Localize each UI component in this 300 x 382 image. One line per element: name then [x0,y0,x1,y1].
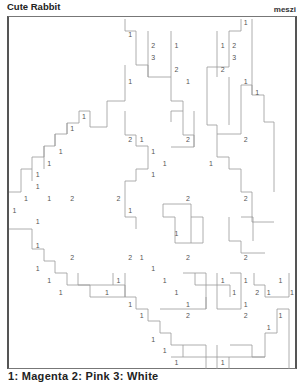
outline-eye [163,204,203,243]
clue-cell[interactable]: 1 [44,193,55,204]
clue-cell[interactable]: 1 [159,345,170,356]
clue-cell[interactable]: 1 [67,123,78,134]
clue-cell[interactable]: 1 [263,287,274,298]
clue-cell[interactable]: 1 [182,299,193,310]
clue-cell[interactable]: 1 [136,252,147,263]
clue-cell[interactable]: 1 [217,357,228,368]
clue-cell[interactable]: 1 [217,40,228,51]
clue-cell[interactable]: 1 [55,146,66,157]
clue-cell[interactable]: 1 [44,275,55,286]
clue-cell[interactable]: 2 [252,287,263,298]
clue-cell[interactable]: 1 [229,287,240,298]
clue-cell[interactable]: 1 [275,275,286,286]
clue-cell[interactable]: 2 [171,64,182,75]
clue-cell[interactable]: 1 [78,111,89,122]
clue-cell[interactable]: 1 [32,181,43,192]
clue-cell[interactable]: 1 [240,76,251,87]
clue-cell[interactable]: 1 [9,205,20,216]
clue-cell[interactable]: 2 [113,193,124,204]
clue-cell[interactable]: 1 [275,310,286,321]
clue-cell[interactable]: 2 [240,310,251,321]
clue-cell[interactable]: 1 [171,228,182,239]
clue-cell[interactable]: 1 [32,169,43,180]
clue-cell[interactable]: 2 [240,134,251,145]
clue-cell[interactable]: 1 [171,357,182,368]
clue-cell[interactable]: 1 [148,334,159,345]
clue-cell[interactable]: 2 [229,40,240,51]
clue-cell[interactable]: 2 [240,193,251,204]
color-legend: 1: Magenta 2: Pink 3: White [8,370,159,382]
clue-cell[interactable]: 1 [32,240,43,251]
clue-cell[interactable]: 1 [32,216,43,227]
puzzle-author: meszi [274,5,296,14]
clue-cell[interactable]: 2 [182,310,193,321]
clue-cell[interactable]: 1 [148,146,159,157]
clue-cell[interactable]: 2 [125,252,136,263]
outline-head-left [9,111,90,192]
clue-cell[interactable]: 1 [252,87,263,98]
clue-cell[interactable]: 1 [136,134,147,145]
clue-cell[interactable]: 1 [263,322,274,333]
clue-cell[interactable]: 1 [136,310,147,321]
clue-cell[interactable]: 1 [44,158,55,169]
outline-ear-middle [90,65,125,127]
clue-cell[interactable]: 1 [171,40,182,51]
clue-cell[interactable]: 2 [182,193,193,204]
clue-cell[interactable]: 2 [67,193,78,204]
clue-cell[interactable]: 1 [101,287,112,298]
outline-head-right [217,134,274,222]
clue-cell[interactable]: 1 [217,275,228,286]
puzzle-title: Cute Rabbit [7,1,60,12]
clue-cell[interactable]: 1 [240,17,251,28]
clue-cell[interactable]: 1 [21,193,32,204]
clue-cell[interactable]: 1 [148,169,159,180]
clue-cell[interactable]: 1 [32,263,43,274]
clue-cell[interactable]: 2 [217,64,228,75]
clue-cell[interactable]: 1 [286,287,297,298]
clue-cell[interactable]: 2 [67,252,78,263]
clue-cell[interactable]: 1 [125,29,136,40]
clue-cell[interactable]: 2 [125,134,136,145]
clue-cell[interactable]: 1 [113,275,124,286]
puzzle-board[interactable]: 1121123322111111212211111111112222111112… [7,16,297,369]
clue-cell[interactable]: 1 [240,299,251,310]
clue-cell[interactable]: 1 [148,263,159,274]
clue-cell[interactable]: 1 [125,205,136,216]
clue-cell[interactable]: 1 [159,275,170,286]
clue-cell[interactable]: 1 [240,275,251,286]
clue-cell[interactable]: 1 [55,287,66,298]
clue-cell[interactable]: 2 [182,134,193,145]
clue-cell[interactable]: 2 [182,252,193,263]
clue-cell[interactable]: 1 [171,287,182,298]
clue-cell[interactable]: 1 [206,158,217,169]
clue-cell[interactable]: 3 [229,52,240,63]
clue-cell[interactable]: 1 [125,299,136,310]
clue-cell[interactable]: 1 [125,76,136,87]
clue-cell[interactable]: 2 [240,252,251,263]
clue-cell[interactable]: 1 [159,158,170,169]
clue-cell[interactable]: 1 [182,76,193,87]
clue-cell[interactable]: 3 [148,52,159,63]
clue-cell[interactable]: 2 [148,40,159,51]
